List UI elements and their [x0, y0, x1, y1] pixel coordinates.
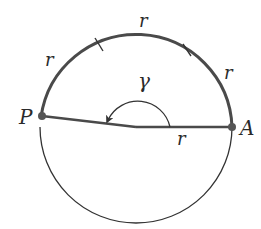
diagram-canvas: P A r r r r γ	[0, 0, 261, 229]
radius-center-to-P	[42, 116, 136, 127]
circle-upper-arc	[41, 34, 232, 127]
label-P: P	[18, 105, 33, 129]
label-arc-right-r: r	[224, 62, 234, 83]
circle-lower-arc	[40, 127, 232, 223]
label-arc-left-r: r	[45, 49, 55, 70]
point-P	[38, 112, 46, 120]
angle-gamma-arc	[108, 101, 170, 127]
label-arc-top-r: r	[139, 10, 149, 31]
label-radius-r: r	[177, 128, 187, 149]
label-angle-gamma: γ	[138, 69, 150, 93]
label-A: A	[238, 116, 254, 140]
point-A	[228, 123, 236, 131]
